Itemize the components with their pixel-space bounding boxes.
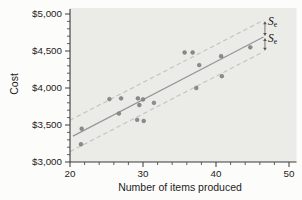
se-sub: e: [274, 20, 277, 29]
scatter-point: [183, 51, 187, 55]
scatter-point: [108, 97, 112, 101]
scatter-point: [119, 96, 123, 100]
scatter-point: [136, 96, 140, 100]
scatter-point: [79, 142, 83, 146]
se-annotation-lower: Se: [268, 33, 277, 47]
scatter-point: [137, 103, 141, 107]
y-tick-label: $4,500: [32, 45, 63, 56]
y-tick-label: $4,000: [32, 82, 63, 93]
chart-canvas: $3,000$3,500$4,000$4,500$5,00020304050: [0, 0, 302, 200]
se-sub: e: [274, 37, 277, 46]
y-tick-label: $3,000: [32, 156, 63, 167]
scatter-point: [220, 74, 224, 78]
se-annotation-upper: Se: [268, 16, 277, 30]
scatter-point: [191, 51, 195, 55]
plot-background: [70, 8, 297, 162]
y-tick-label: $3,500: [32, 119, 63, 130]
scatter-point: [197, 63, 201, 67]
x-tick-label: 40: [211, 168, 222, 179]
x-tick-label: 50: [284, 168, 295, 179]
x-tick-label: 20: [65, 168, 76, 179]
y-tick-label: $5,000: [32, 8, 63, 19]
scatter-chart: $3,000$3,500$4,000$4,500$5,00020304050 C…: [0, 0, 302, 200]
scatter-point: [248, 45, 252, 49]
scatter-point: [80, 127, 84, 131]
scatter-point: [219, 54, 223, 58]
x-tick-label: 30: [138, 168, 149, 179]
scatter-point: [141, 98, 145, 102]
scatter-point: [135, 118, 139, 122]
scatter-point: [194, 86, 198, 90]
scatter-point: [152, 101, 156, 105]
scatter-point: [117, 112, 121, 116]
scatter-point: [142, 119, 146, 123]
x-axis-title: Number of items produced: [70, 181, 290, 193]
y-axis-title: Cost: [8, 73, 20, 95]
